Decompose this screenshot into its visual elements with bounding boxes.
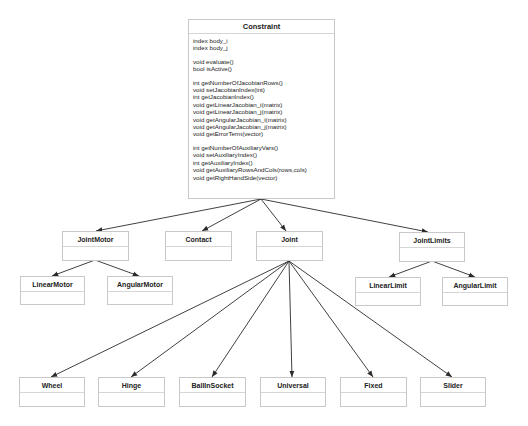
class-body (166, 247, 231, 260)
class-body (261, 393, 325, 406)
class-title: Contact (166, 232, 231, 247)
class-contact[interactable]: Contact (165, 231, 232, 261)
class-body (341, 393, 406, 406)
method: void setJacobianIndex(int) (193, 86, 330, 93)
class-jointmotor[interactable]: JointMotor (62, 231, 129, 261)
method: int getJacobianIndex() (193, 93, 330, 100)
class-fixed[interactable]: Fixed (340, 377, 407, 407)
class-body (108, 292, 172, 305)
class-body (21, 292, 84, 305)
class-title: BallInSocket (180, 378, 245, 393)
method: int getNumberOfJacobianRows() (193, 79, 330, 86)
method: bool isActive() (193, 65, 330, 72)
class-linearlimit[interactable]: LinearLimit (355, 277, 421, 306)
class-body (180, 393, 245, 406)
class-title: LinearLimit (356, 278, 420, 293)
class-title: JointLimits (400, 233, 464, 248)
class-members: index body_i index body_j void evaluate(… (189, 34, 334, 183)
class-wheel[interactable]: Wheel (19, 377, 85, 407)
class-universal[interactable]: Universal (260, 377, 326, 407)
class-body (400, 248, 464, 261)
edge-constraint-joint (261, 199, 286, 231)
class-title: JointMotor (63, 232, 128, 247)
class-body (443, 293, 507, 306)
class-ballinsocket[interactable]: BallInSocket (179, 377, 246, 407)
method: void getAngularJacobian_i(matrix) (193, 116, 330, 123)
class-title: Constraint (189, 20, 334, 34)
class-constraint[interactable]: Constraint index body_i index body_j voi… (188, 19, 335, 199)
attribute: index body_j (193, 44, 330, 51)
class-body (99, 393, 164, 406)
class-title: AngularLimit (443, 278, 507, 293)
method: void getAuxiliaryRowsAndCols(rows,cols) (193, 166, 330, 173)
method: void getLinearJacobian_i(matrix) (193, 101, 330, 108)
class-title: Slider (421, 378, 485, 393)
class-angularmotor[interactable]: AngularMotor (107, 276, 173, 305)
method: void getLinearJacobian_j(matrix) (193, 108, 330, 115)
method: void getRightHandSide(vector) (193, 174, 330, 181)
attribute: index body_i (193, 37, 330, 44)
class-body (257, 247, 322, 260)
class-title: LinearMotor (21, 277, 84, 292)
class-slider[interactable]: Slider (420, 377, 486, 407)
class-title: Fixed (341, 378, 406, 393)
class-body (20, 393, 84, 406)
class-body (63, 247, 128, 260)
method: void getErrorTerm(vector) (193, 130, 330, 137)
class-title: Hinge (99, 378, 164, 393)
edge-constraint-contact (202, 199, 261, 231)
class-angularlimit[interactable]: AngularLimit (442, 277, 508, 306)
method: void evaluate() (193, 58, 330, 65)
class-hinge[interactable]: Hinge (98, 377, 165, 407)
class-jointlimits[interactable]: JointLimits (399, 232, 465, 262)
class-title: Wheel (20, 378, 84, 393)
class-title: AngularMotor (108, 277, 172, 292)
edge-constraint-jointlimits (261, 199, 428, 232)
class-title: Joint (257, 232, 322, 247)
method: int getNumberOfAuxiliaryVars() (193, 144, 330, 151)
class-joint[interactable]: Joint (256, 231, 323, 261)
class-title: Universal (261, 378, 325, 393)
class-body (421, 393, 485, 406)
class-linearmotor[interactable]: LinearMotor (20, 276, 85, 305)
method: int getAuxiliaryIndex() (193, 159, 330, 166)
method: void setAuxiliaryIndex() (193, 151, 330, 158)
method: void getAngularJacobian_j(matrix) (193, 123, 330, 130)
edge-constraint-jointmotor (96, 199, 261, 231)
class-body (356, 293, 420, 306)
